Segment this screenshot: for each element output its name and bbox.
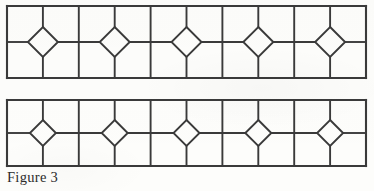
upper-lattice-panel [7, 6, 366, 78]
diamond-motif [315, 27, 345, 57]
diamond-motif [28, 27, 58, 57]
lower-lattice-panel [7, 100, 366, 166]
diamond-motif [243, 27, 273, 57]
figure-caption: Figure 3 [7, 168, 58, 186]
diamond-motif [317, 120, 343, 146]
diamond-motif [102, 120, 128, 146]
diamond-motif [30, 120, 56, 146]
figure-page: Figure 3 [0, 0, 374, 191]
diamond-motif [100, 27, 130, 57]
diamond-motif [174, 120, 200, 146]
diamond-motif [245, 120, 271, 146]
diamond-motif [172, 27, 202, 57]
panels-group [7, 6, 366, 166]
lattice-figure [0, 0, 374, 191]
